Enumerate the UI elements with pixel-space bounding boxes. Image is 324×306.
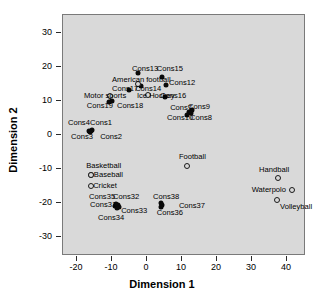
- point-label: Cons4: [68, 119, 90, 127]
- point-label: Cons15: [157, 65, 183, 73]
- point-label: Cons13: [132, 65, 158, 73]
- data-point: [184, 163, 190, 169]
- x-tick-label: 10: [176, 262, 186, 272]
- point-label: Basketball: [86, 162, 121, 170]
- point-label: American football: [112, 76, 171, 84]
- point-label: Cons38: [153, 193, 179, 201]
- point-label: Handball: [259, 166, 289, 174]
- point-label: Cons35: [89, 193, 115, 201]
- point-label: Cons8: [190, 114, 212, 122]
- x-tick-label: 30: [246, 262, 256, 272]
- point-label: Cons7: [170, 104, 192, 112]
- data-point: [274, 197, 280, 203]
- x-tick: [146, 256, 147, 261]
- point-label: Cons32: [113, 193, 139, 201]
- y-tick: [56, 134, 61, 135]
- x-tick: [181, 256, 182, 261]
- y-tick-label: 0: [47, 129, 52, 139]
- point-label: Cons12: [169, 80, 195, 88]
- point-label: Volleyball: [280, 203, 312, 211]
- y-tick: [56, 168, 61, 169]
- point-label: Ice Hockey: [137, 92, 175, 100]
- point-label: Baseball: [94, 171, 123, 179]
- y-axis-title: Dimension 2: [7, 80, 19, 200]
- x-tick: [286, 256, 287, 261]
- point-label: Cons3: [71, 133, 93, 141]
- y-tick-label: 10: [42, 95, 52, 105]
- x-tick: [216, 256, 217, 261]
- data-point: [275, 175, 281, 181]
- x-axis-title: Dimension 1: [0, 278, 324, 290]
- point-label: Cons2: [100, 133, 122, 141]
- data-point: [160, 203, 165, 208]
- point-label: Cons37: [179, 202, 205, 210]
- x-tick-label: 40: [281, 262, 291, 272]
- point-label: Cons19: [87, 102, 113, 110]
- data-point: [289, 187, 295, 193]
- point-label: Motor sports: [84, 92, 126, 100]
- y-tick-label: 30: [42, 27, 52, 37]
- x-tick: [111, 256, 112, 261]
- x-tick-label: -10: [104, 262, 117, 272]
- y-tick-label: -10: [39, 163, 52, 173]
- point-label: Football: [179, 153, 206, 161]
- point-label: Cons31: [90, 201, 116, 209]
- x-tick-label: 20: [211, 262, 221, 272]
- y-tick-label: -30: [39, 231, 52, 241]
- point-label: Cons1: [90, 119, 112, 127]
- y-tick: [56, 100, 61, 101]
- y-tick: [56, 32, 61, 33]
- x-tick: [251, 256, 252, 261]
- y-tick: [56, 202, 61, 203]
- x-tick-label: 0: [143, 262, 148, 272]
- point-label: Cons33: [121, 207, 147, 215]
- y-tick: [56, 66, 61, 67]
- y-tick-label: 20: [42, 61, 52, 71]
- y-tick: [56, 236, 61, 237]
- x-tick-label: -20: [69, 262, 82, 272]
- point-label: Cons10: [167, 114, 193, 122]
- x-tick: [76, 256, 77, 261]
- point-label: Cons18: [117, 102, 143, 110]
- point-label: Waterpolo: [252, 186, 286, 194]
- point-label: Cricket: [93, 182, 117, 190]
- y-tick-label: -20: [39, 197, 52, 207]
- scatter-plot-figure: -20-10010203040 3020100-10-20-30 Cons13C…: [0, 0, 324, 306]
- point-label: Cons34: [98, 214, 124, 222]
